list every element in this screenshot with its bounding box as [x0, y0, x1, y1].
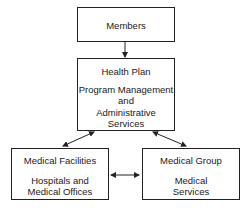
node-medical-group: Medical Group Medical Services: [142, 148, 240, 200]
node-health-plan-title: Health Plan: [78, 66, 174, 78]
edge-healthplan-group: [153, 132, 186, 146]
node-medical-facilities-title: Medical Facilities: [12, 155, 108, 167]
node-medical-group-title: Medical Group: [143, 155, 239, 167]
node-members-title: Members: [78, 20, 174, 32]
node-health-plan: Health Plan Program Management and Admin…: [77, 58, 175, 131]
edge-healthplan-facilities: [63, 132, 94, 146]
node-members: Members: [77, 7, 175, 42]
node-medical-facilities: Medical Facilities Hospitals and Medical…: [11, 148, 109, 200]
node-health-plan-subtitle: Program Management and Administrative Se…: [78, 84, 174, 130]
node-medical-group-subtitle: Medical Services: [143, 175, 239, 198]
node-medical-facilities-subtitle: Hospitals and Medical Offices: [12, 175, 108, 198]
